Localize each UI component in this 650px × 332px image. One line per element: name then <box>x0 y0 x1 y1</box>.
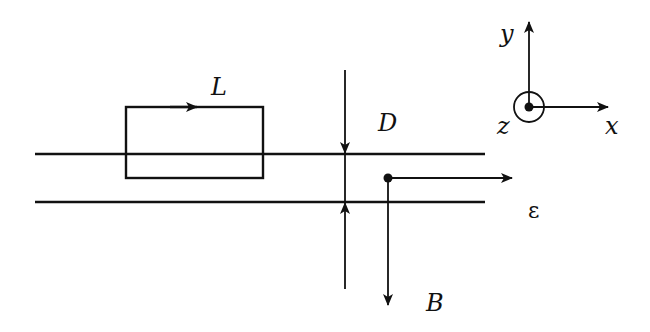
y-axis-label: y <box>499 20 514 48</box>
electric-field-label: ε <box>528 198 539 223</box>
loop-label: L <box>210 73 227 101</box>
z-axis-dot <box>525 103 534 112</box>
separation-label: D <box>377 109 397 137</box>
coordinate-axes: y x z <box>496 20 619 140</box>
loop-rectangle <box>126 107 263 178</box>
waveguide-diagram: L D ε B y x z <box>0 0 650 332</box>
z-axis-label: z <box>496 112 510 140</box>
x-axis-label: x <box>605 112 619 140</box>
magnetic-field-label: B <box>425 289 444 317</box>
